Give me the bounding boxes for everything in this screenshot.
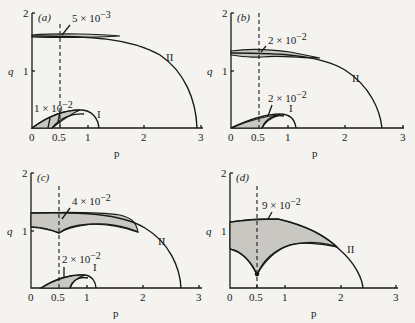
curve-i-label: I	[289, 102, 293, 114]
xtick-0: 0	[29, 131, 35, 143]
xtick-3: 3	[393, 291, 399, 303]
ytick-1: 1	[23, 65, 29, 77]
ytick-1: 1	[22, 225, 28, 237]
curve-i-band	[41, 275, 85, 288]
xtick-1: 1	[285, 131, 291, 143]
xtick-0: 0	[227, 291, 233, 303]
panel-b: 2 1 q 0 0.5 1 2 3 p (b) 2 × 10−2 2 × 10−…	[207, 7, 406, 159]
xtick-2: 2	[141, 131, 147, 143]
xtick-3: 3	[196, 291, 202, 303]
xtick-3: 3	[198, 131, 204, 143]
panel-b-label: (b)	[237, 11, 250, 24]
curve-i-label: I	[97, 108, 101, 120]
ytick-2: 2	[221, 167, 227, 179]
ytick-1: 1	[222, 65, 228, 77]
ytick-2: 2	[23, 7, 29, 19]
y-axis-label: q	[207, 65, 213, 77]
annotation-top: 2 × 10−2	[268, 31, 307, 46]
panel-d-label: (d)	[236, 171, 249, 184]
xtick-0: 0	[28, 291, 34, 303]
xtick-05: 0.5	[52, 131, 66, 143]
ytick-2: 2	[22, 167, 28, 179]
panel-d: 2 1 q 0 0.5 1 2 3 p (d) 9 × 10−2 II	[206, 167, 399, 319]
annotation-bottom: 2 × 10−2	[268, 89, 307, 104]
xtick-0: 0	[228, 131, 234, 143]
y-axis-label: q	[206, 225, 212, 237]
annotation-top: 9 × 10−2	[262, 196, 301, 211]
curve-ii-label: II	[352, 72, 360, 84]
xtick-05: 0.5	[251, 131, 265, 143]
xtick-2: 2	[342, 131, 348, 143]
xtick-2: 2	[338, 291, 344, 303]
x-axis-label: p	[312, 147, 318, 159]
panel-c: 2 1 q 0 0.5 1 2 3 p (c) 4 × 10−2 2 × 10−…	[7, 167, 202, 319]
panel-a-label: (a)	[38, 11, 51, 24]
curve-i-label: I	[93, 261, 97, 273]
ytick-2: 2	[222, 7, 228, 19]
xtick-1: 1	[282, 291, 288, 303]
x-axis-label: p	[311, 307, 317, 319]
annotation-top: 4 × 10−2	[72, 192, 111, 207]
panel-c-label: (c)	[37, 171, 50, 184]
curve-ii-label: II	[158, 235, 166, 247]
x-axis-label: p	[114, 147, 120, 159]
y-axis-label: q	[8, 65, 14, 77]
annotation-top: 5 × 10−3	[72, 9, 111, 24]
xtick-3: 3	[400, 131, 406, 143]
panel-a: 2 1 q 0 0.5 1 2 3 p (a) 5 × 10−3 1 × 10−…	[8, 7, 204, 159]
xtick-1: 1	[84, 291, 90, 303]
xtick-05: 0.5	[51, 291, 65, 303]
x-axis-label: p	[113, 307, 119, 319]
curve-ii-label: II	[347, 243, 355, 255]
ytick-1: 1	[221, 225, 227, 237]
curve-ii-label: II	[166, 51, 174, 63]
xtick-2: 2	[140, 291, 146, 303]
xtick-05: 0.5	[249, 291, 263, 303]
y-axis-label: q	[7, 225, 13, 237]
figure: 2 1 q 0 0.5 1 2 3 p (a) 5 × 10−3 1 × 10−…	[0, 0, 415, 323]
xtick-1: 1	[85, 131, 91, 143]
